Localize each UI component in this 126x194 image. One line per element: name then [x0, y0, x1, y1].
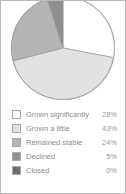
legend-value-closed: 0% — [99, 166, 117, 175]
legend-item-declined[interactable]: Declined 5% — [12, 149, 117, 163]
legend-swatch-declined — [12, 152, 21, 161]
legend-item-grown-a-little[interactable]: Grown a little 43% — [12, 121, 117, 135]
legend-swatch-closed — [12, 166, 21, 175]
legend-value-grown-a-little: 43% — [99, 124, 117, 133]
pie-chart — [10, 1, 116, 101]
legend-label-remained-stable: Remained stable — [26, 138, 99, 147]
legend-value-remained-stable: 24% — [99, 138, 117, 147]
legend-swatch-grown-significantly — [12, 110, 21, 119]
legend-swatch-grown-a-little — [12, 124, 21, 133]
legend-label-grown-a-little: Grown a little — [26, 124, 99, 133]
legend-swatch-remained-stable — [12, 138, 21, 147]
legend-label-declined: Declined — [26, 152, 99, 161]
legend-value-grown-significantly: 28% — [99, 110, 117, 119]
legend-label-grown-significantly: Grown significantly — [26, 110, 99, 119]
pie-chart-panel: Grown significantly 28% Grown a little 4… — [0, 0, 126, 194]
chart-legend: Grown significantly 28% Grown a little 4… — [1, 107, 125, 177]
legend-value-declined: 5% — [99, 152, 117, 161]
pie-slice-group — [12, 1, 115, 99]
legend-item-remained-stable[interactable]: Remained stable 24% — [12, 135, 117, 149]
legend-label-closed: Closed — [26, 166, 99, 175]
pie-chart-svg — [10, 1, 116, 101]
chart-area — [1, 1, 125, 105]
legend-item-closed[interactable]: Closed 0% — [12, 163, 117, 177]
legend-item-grown-significantly[interactable]: Grown significantly 28% — [12, 107, 117, 121]
